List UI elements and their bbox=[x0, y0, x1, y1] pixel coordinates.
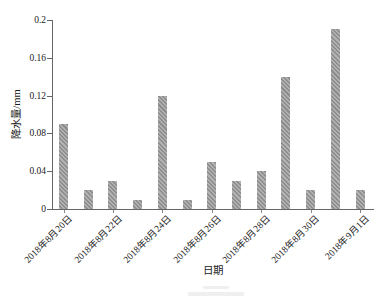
x-axis-tick bbox=[113, 210, 114, 213]
y-axis-title: 降水量/mm bbox=[11, 59, 23, 169]
y-axis-tick bbox=[47, 209, 52, 210]
bar bbox=[183, 200, 192, 209]
bar bbox=[232, 181, 241, 209]
bar bbox=[207, 162, 216, 209]
bar bbox=[356, 190, 365, 209]
y-tick-label: 0.2 bbox=[16, 15, 46, 25]
y-axis-tick bbox=[47, 58, 52, 59]
y-axis-tick bbox=[47, 133, 52, 134]
x-axis-tick bbox=[162, 210, 163, 213]
y-tick-label: 0.12 bbox=[16, 91, 46, 101]
y-tick-label: 0.08 bbox=[16, 128, 46, 138]
x-axis-line bbox=[52, 209, 374, 210]
bar bbox=[59, 124, 68, 209]
x-tick-label: 2018年8月22日 bbox=[72, 213, 124, 265]
precipitation-bar-chart: 降水量/mm 日期 00.040.080.120.160.22018年8月20日… bbox=[0, 0, 390, 298]
y-axis-tick bbox=[47, 171, 52, 172]
x-tick-label: 2018年8月20日 bbox=[23, 213, 75, 265]
x-axis-tick bbox=[311, 210, 312, 213]
x-tick-label: 2018年8月26日 bbox=[171, 213, 223, 265]
x-axis-tick bbox=[212, 210, 213, 213]
bar bbox=[331, 29, 340, 209]
x-tick-label: 2018年8月24日 bbox=[122, 213, 174, 265]
bar bbox=[281, 77, 290, 209]
bar bbox=[306, 190, 315, 209]
x-axis-tick bbox=[261, 210, 262, 213]
y-axis-line bbox=[52, 20, 53, 210]
y-tick-label: 0.04 bbox=[16, 166, 46, 176]
bar bbox=[84, 190, 93, 209]
x-axis-title: 日期 bbox=[52, 265, 374, 277]
cutoff-caption-fragment bbox=[188, 292, 244, 296]
y-tick-label: 0.16 bbox=[16, 53, 46, 63]
x-tick-label: 2018年9月1日 bbox=[323, 213, 371, 261]
y-axis-tick bbox=[47, 20, 52, 21]
x-axis-tick bbox=[64, 210, 65, 213]
y-axis-tick bbox=[47, 96, 52, 97]
y-tick-label: 0 bbox=[16, 204, 46, 214]
cutoff-caption-fragment bbox=[203, 286, 229, 289]
bar bbox=[133, 200, 142, 209]
bar bbox=[158, 96, 167, 209]
bar bbox=[257, 171, 266, 209]
x-tick-label: 2018年8月30日 bbox=[270, 213, 322, 265]
x-tick-label: 2018年8月28日 bbox=[220, 213, 272, 265]
bar bbox=[108, 181, 117, 209]
x-axis-tick bbox=[360, 210, 361, 213]
